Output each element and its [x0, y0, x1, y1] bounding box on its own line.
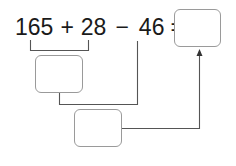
step1-sum-value	[36, 56, 82, 92]
final-answer-value	[175, 10, 220, 46]
arrow-head-icon	[197, 49, 203, 56]
final-answer-box[interactable]	[174, 9, 221, 47]
minus-operator: −	[115, 14, 128, 41]
step1-sum-box[interactable]	[35, 55, 83, 93]
operand-28: 28	[81, 14, 107, 41]
equation: 165 + 28 − 46 =	[15, 12, 184, 42]
connector-step2-to-answer	[122, 55, 200, 129]
operand-46: 46	[139, 14, 165, 41]
plus-operator: +	[60, 14, 73, 41]
operand-165: 165	[15, 14, 53, 41]
step2-difference-value	[75, 110, 121, 146]
step2-difference-box[interactable]	[74, 109, 122, 147]
